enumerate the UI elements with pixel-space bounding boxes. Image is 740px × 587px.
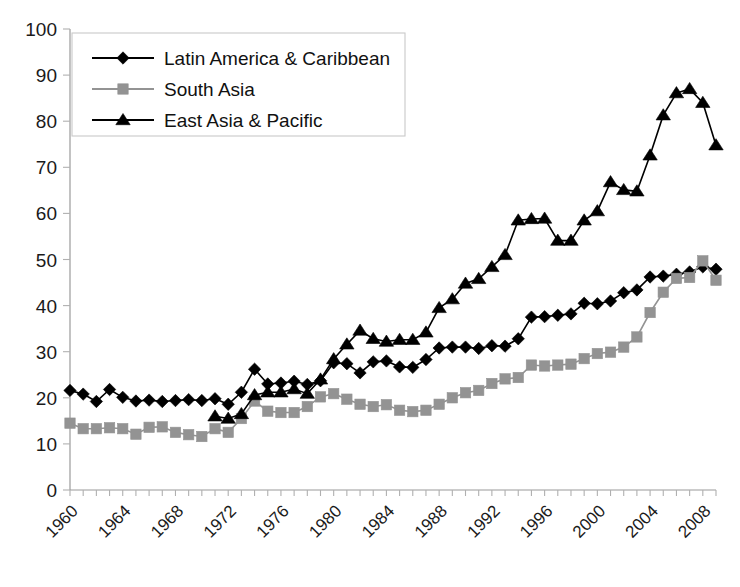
data-point-marker bbox=[223, 427, 233, 437]
y-axis-tick-label: 30 bbox=[36, 342, 57, 363]
data-point-marker bbox=[698, 256, 708, 266]
data-point-marker bbox=[342, 394, 352, 404]
data-point-marker bbox=[658, 287, 668, 297]
chart-legend: Latin America & CaribbeanSouth AsiaEast … bbox=[72, 33, 405, 136]
line-chart: 0102030405060708090100 19601964196819721… bbox=[0, 0, 740, 587]
data-point-marker bbox=[157, 422, 167, 432]
y-axis-tick-label: 10 bbox=[36, 434, 57, 455]
data-point-marker bbox=[447, 393, 457, 403]
data-point-marker bbox=[684, 272, 694, 282]
data-point-marker bbox=[500, 374, 510, 384]
data-point-marker bbox=[78, 423, 88, 433]
data-point-marker bbox=[619, 342, 629, 352]
data-point-marker bbox=[605, 347, 615, 357]
data-point-marker bbox=[632, 332, 642, 342]
data-point-marker bbox=[65, 418, 75, 428]
legend-entry-label: East Asia & Pacific bbox=[164, 110, 322, 131]
data-point-marker bbox=[592, 348, 602, 358]
y-axis-tick-label: 90 bbox=[36, 65, 57, 86]
data-point-marker bbox=[118, 423, 128, 433]
data-point-marker bbox=[144, 422, 154, 432]
data-point-marker bbox=[118, 84, 128, 94]
data-point-marker bbox=[210, 423, 220, 433]
data-point-marker bbox=[566, 359, 576, 369]
data-point-marker bbox=[539, 361, 549, 371]
data-point-marker bbox=[289, 407, 299, 417]
y-axis-tick-label: 80 bbox=[36, 111, 57, 132]
legend-entry-label: Latin America & Caribbean bbox=[164, 48, 390, 69]
y-axis-tick-label: 0 bbox=[46, 480, 57, 501]
data-point-marker bbox=[368, 401, 378, 411]
y-axis-tick-label: 20 bbox=[36, 388, 57, 409]
data-point-marker bbox=[104, 423, 114, 433]
data-point-marker bbox=[355, 399, 365, 409]
data-point-marker bbox=[276, 407, 286, 417]
y-axis-tick-label: 50 bbox=[36, 250, 57, 271]
data-point-marker bbox=[394, 405, 404, 415]
data-point-marker bbox=[711, 275, 721, 285]
data-point-marker bbox=[302, 401, 312, 411]
legend-entry-label: South Asia bbox=[164, 79, 255, 100]
data-point-marker bbox=[170, 427, 180, 437]
data-point-marker bbox=[553, 360, 563, 370]
chart-container: 0102030405060708090100 19601964196819721… bbox=[0, 0, 740, 587]
data-point-marker bbox=[381, 400, 391, 410]
data-point-marker bbox=[421, 405, 431, 415]
data-point-marker bbox=[487, 378, 497, 388]
data-point-marker bbox=[131, 429, 141, 439]
y-axis-tick-label: 70 bbox=[36, 157, 57, 178]
data-point-marker bbox=[434, 399, 444, 409]
y-axis-tick-label: 40 bbox=[36, 296, 57, 317]
data-point-marker bbox=[513, 372, 523, 382]
data-point-marker bbox=[671, 273, 681, 283]
data-point-marker bbox=[91, 423, 101, 433]
data-point-marker bbox=[197, 431, 207, 441]
data-point-marker bbox=[183, 429, 193, 439]
data-point-marker bbox=[315, 392, 325, 402]
data-point-marker bbox=[460, 388, 470, 398]
y-axis-tick-label: 100 bbox=[25, 19, 57, 40]
data-point-marker bbox=[473, 385, 483, 395]
data-point-marker bbox=[408, 406, 418, 416]
data-point-marker bbox=[526, 360, 536, 370]
data-point-marker bbox=[263, 406, 273, 416]
data-point-marker bbox=[579, 353, 589, 363]
data-point-marker bbox=[645, 307, 655, 317]
data-point-marker bbox=[328, 388, 338, 398]
y-axis-tick-label: 60 bbox=[36, 203, 57, 224]
